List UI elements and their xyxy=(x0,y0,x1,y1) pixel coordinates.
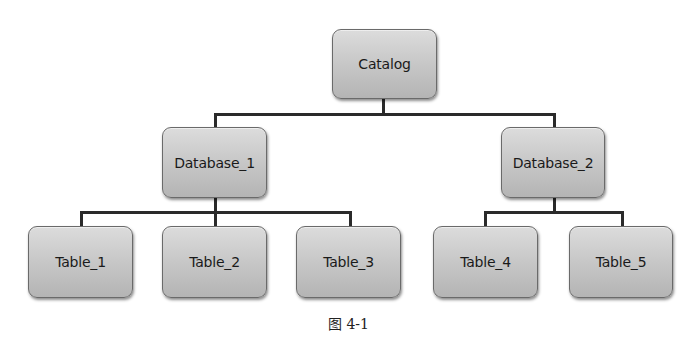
connector-to-table-1 xyxy=(80,211,83,226)
node-table-3: Table_3 xyxy=(296,226,401,298)
connector-catalog-bus xyxy=(214,113,556,116)
connector-to-database-1 xyxy=(214,113,217,127)
node-catalog: Catalog xyxy=(332,29,437,99)
connector-to-table-2 xyxy=(214,211,217,226)
figure-caption: 图 4-1 xyxy=(0,313,697,333)
connector-to-database-2 xyxy=(553,113,556,127)
node-database-2: Database_2 xyxy=(501,127,605,198)
node-table-2: Table_2 xyxy=(162,226,267,298)
connector-to-table-4 xyxy=(484,211,487,226)
node-table-4: Table_4 xyxy=(433,226,538,298)
node-table-5: Table_5 xyxy=(569,226,673,298)
connector-to-table-5 xyxy=(621,211,624,226)
node-table-1: Table_1 xyxy=(28,226,133,298)
connector-to-table-3 xyxy=(349,211,352,226)
node-database-1: Database_1 xyxy=(162,127,267,198)
connector-database-2-bus xyxy=(484,211,624,214)
hierarchy-diagram: Catalog Database_1 Database_2 Table_1 Ta… xyxy=(0,0,697,359)
